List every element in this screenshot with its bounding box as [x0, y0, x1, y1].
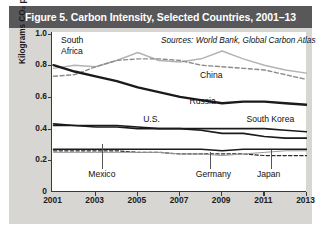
x-tick-mark — [95, 192, 96, 196]
annotation-mexico: Mexico — [86, 169, 117, 179]
y-tick-mark — [48, 34, 52, 35]
annotation-africa: Africa — [61, 46, 83, 56]
x-tick-mark — [221, 192, 222, 196]
x-tick-label: 2009 — [201, 195, 241, 205]
x-tick-label: 2013 — [286, 195, 321, 205]
annotation-south-korea: South Korea — [246, 114, 294, 124]
annotation-china: China — [200, 70, 222, 80]
x-tick-label: 2011 — [243, 195, 283, 205]
series-line-japan — [54, 151, 307, 156]
figure-container: Figure 5. Carbon Intensity, Selected Cou… — [9, 6, 312, 224]
series-line-south-korea — [54, 125, 307, 131]
y-tick-label: 0.4 — [1, 123, 47, 133]
x-tick-mark — [263, 192, 264, 196]
x-tick-label: 2001 — [33, 195, 73, 205]
series-line-south-africa — [54, 51, 307, 73]
leader-line-germany — [210, 152, 211, 169]
x-tick-mark — [306, 192, 307, 196]
sources-note: Sources: World Bank, Global Carbon Atlas — [161, 36, 315, 45]
y-tick-mark — [48, 160, 52, 161]
y-tick-label: 0.2 — [1, 154, 47, 164]
y-tick-label: 1.0 — [1, 28, 47, 38]
x-tick-label: 2003 — [75, 195, 115, 205]
x-tick-mark — [137, 192, 138, 196]
annotation-south: South — [61, 35, 83, 45]
x-tick-mark — [179, 192, 180, 196]
y-tick-label: 0.8 — [1, 59, 47, 69]
annotation-germany: Germany — [194, 169, 233, 179]
series-line-mexico — [54, 149, 307, 151]
plot-wrapper: Kilograms CO₂ per 2011 PPP Dollars 00.20… — [51, 32, 306, 200]
figure-title: Figure 5. Carbon Intensity, Selected Cou… — [9, 6, 312, 28]
leader-line-japan — [271, 150, 272, 169]
y-tick-label: 0.6 — [1, 91, 47, 101]
annotation-u-s: U.S. — [143, 114, 160, 124]
figure-title-bar: Figure 5. Carbon Intensity, Selected Cou… — [9, 6, 312, 28]
annotation-japan: Japan — [255, 169, 282, 179]
series-line-germany — [54, 151, 307, 156]
x-tick-label: 2007 — [159, 195, 199, 205]
annotation-russia: Russia — [190, 96, 216, 106]
y-tick-mark — [48, 97, 52, 98]
x-tick-label: 2005 — [117, 195, 157, 205]
y-tick-mark — [48, 65, 52, 66]
y-tick-mark — [48, 129, 52, 130]
leader-line-mexico — [102, 144, 103, 168]
